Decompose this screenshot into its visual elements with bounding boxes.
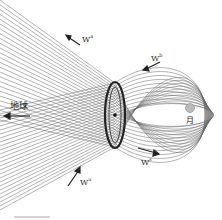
w-label-top-left: Wa bbox=[82, 33, 93, 44]
manifold-lines-moon-loop bbox=[115, 68, 214, 163]
earth-label: 地球 bbox=[10, 99, 28, 112]
orbit-diagram bbox=[0, 0, 222, 220]
w-label-bottom-right: Ws bbox=[141, 156, 152, 167]
w-label-top-right: Wb bbox=[151, 52, 162, 63]
moon-label: 月 bbox=[186, 114, 194, 125]
w-label-bottom-left: Wu bbox=[80, 176, 91, 187]
libration-point bbox=[113, 113, 117, 117]
moon-icon bbox=[186, 104, 195, 113]
